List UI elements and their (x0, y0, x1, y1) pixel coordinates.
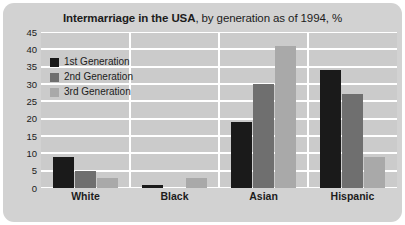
bar (364, 157, 385, 188)
legend-item: 3rd Generation (50, 86, 133, 98)
bar (320, 70, 341, 188)
y-axis-tick-label: 25 (7, 97, 37, 107)
legend-item-label: 3rd Generation (64, 87, 131, 97)
legend-swatch-icon (50, 58, 59, 67)
legend-item: 2nd Generation (50, 71, 133, 83)
chart-title-subtitle: , by generation as of 1994, % (195, 12, 342, 24)
legend-swatch-icon (50, 73, 59, 82)
y-axis-tick-label: 40 (7, 45, 37, 55)
x-axis-tick-label: Asian (219, 191, 308, 202)
x-axis-tick-label: Black (130, 191, 219, 202)
legend-item-label: 1st Generation (64, 57, 130, 67)
bar-group (219, 32, 308, 188)
y-axis-tick-label: 0 (7, 184, 37, 194)
bar (342, 94, 363, 188)
bar (275, 46, 296, 188)
chart-title-main: Intermarriage in the USA (63, 12, 195, 24)
y-axis-tick-label: 15 (7, 132, 37, 142)
legend-item-label: 2nd Generation (64, 72, 133, 82)
bar (97, 178, 118, 188)
bar-group (130, 32, 219, 188)
y-axis: 051015202530354045 (5, 32, 37, 188)
x-axis-tick-label: Hispanic (308, 191, 397, 202)
legend-swatch-icon (50, 88, 59, 97)
y-axis-tick-label: 45 (7, 28, 37, 38)
chart-legend: 1st Generation2nd Generation3rd Generati… (50, 56, 133, 98)
legend-item: 1st Generation (50, 56, 133, 68)
y-axis-tick-label: 35 (7, 62, 37, 72)
chart-panel: Intermarriage in the USA, by generation … (3, 3, 402, 222)
bar (53, 157, 74, 188)
bar (186, 178, 207, 188)
bar (231, 122, 252, 188)
y-axis-tick-label: 5 (7, 166, 37, 176)
chart-title: Intermarriage in the USA, by generation … (3, 12, 402, 24)
y-axis-tick-label: 20 (7, 114, 37, 124)
bar (142, 185, 163, 188)
bar-group (308, 32, 397, 188)
x-axis-tick-label: White (41, 191, 130, 202)
bar (253, 84, 274, 188)
y-axis-tick-label: 10 (7, 149, 37, 159)
bar (75, 171, 96, 188)
x-axis: WhiteBlackAsianHispanic (41, 191, 397, 211)
y-axis-tick-label: 30 (7, 80, 37, 90)
